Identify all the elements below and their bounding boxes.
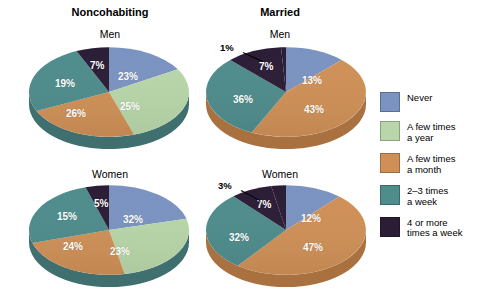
pie-title-noncohabiting-men: Men — [30, 28, 190, 40]
legend-label-never: Never — [407, 92, 432, 104]
slice-label-nm-few-month: 26% — [66, 108, 86, 119]
pie-noncohabiting-men-svg — [22, 44, 197, 149]
legend-item-few-times-a-month: A few times a month — [380, 153, 490, 176]
slice-label-nw-few-year: 23% — [110, 246, 130, 257]
column-title-married: Married — [200, 6, 360, 18]
slice-label-nm-4plus-week: 7% — [90, 60, 104, 71]
legend-label-2-3-times-a-week: 2–3 times a week — [407, 185, 448, 208]
pie-married-men: 13% 43% 36% 7% 1% — [196, 44, 376, 149]
slice-label-mw-never: 12% — [301, 213, 321, 224]
column-title-noncohabiting: Noncohabiting — [30, 6, 190, 18]
slice-label-nw-never: 32% — [123, 214, 143, 225]
slice-callout-mm-4plus: 1% — [220, 42, 234, 53]
slice-label-mw-2-3-week: 32% — [229, 232, 249, 243]
figure-root: Noncohabiting Married Men Men Women Wome… — [0, 0, 492, 302]
slice-label-mm-never: 13% — [302, 75, 322, 86]
legend-item-2-3-times-a-week: 2–3 times a week — [380, 185, 490, 208]
legend: Never A few times a year A few times a m… — [380, 92, 490, 248]
pie-noncohabiting-women-svg — [22, 184, 197, 289]
legend-swatch-2-3-times-a-week — [380, 185, 400, 205]
slice-label-nm-2-3-week: 19% — [55, 78, 75, 89]
slice-label-nm-never: 23% — [118, 71, 138, 82]
pie-noncohabiting-women: 32% 23% 24% 15% 5% — [22, 184, 197, 289]
legend-label-few-times-a-year: A few times a year — [407, 121, 456, 144]
legend-swatch-4-or-more-times-a-week — [380, 217, 400, 237]
pie-title-married-women: Women — [200, 168, 360, 180]
slice-label-nw-few-month: 24% — [63, 241, 83, 252]
slice-label-mm-23week: 7% — [259, 61, 273, 72]
legend-item-never: Never — [380, 92, 490, 112]
legend-item-few-times-a-year: A few times a year — [380, 121, 490, 144]
pie-noncohabiting-men: 23% 25% 26% 19% 7% — [22, 44, 197, 149]
slice-label-nw-2-3-week: 15% — [57, 211, 77, 222]
slice-callout-mw-4plus: 3% — [218, 180, 232, 191]
legend-swatch-few-times-a-month — [380, 153, 400, 173]
slice-label-nm-few-year: 25% — [120, 101, 140, 112]
pie-title-noncohabiting-women: Women — [30, 168, 190, 180]
pie-married-women-svg — [196, 184, 376, 289]
slice-label-nw-4plus-week: 5% — [94, 198, 108, 209]
slice-label-mw-few-month: 47% — [303, 242, 323, 253]
slice-label-mm-few-year-or-23: 36% — [233, 94, 253, 105]
legend-label-few-times-a-month: A few times a month — [407, 153, 456, 176]
pie-title-married-men: Men — [200, 28, 360, 40]
pie-married-women: 12% 47% 32% 7% 3% — [196, 184, 376, 289]
legend-label-4-or-more-times-a-week: 4 or more times a week — [407, 217, 462, 240]
slice-label-mm-few-month: 43% — [304, 104, 324, 115]
legend-swatch-few-times-a-year — [380, 121, 400, 141]
pie-married-men-svg — [196, 44, 376, 149]
legend-item-4-or-more-times-a-week: 4 or more times a week — [380, 217, 490, 240]
legend-swatch-never — [380, 92, 400, 112]
